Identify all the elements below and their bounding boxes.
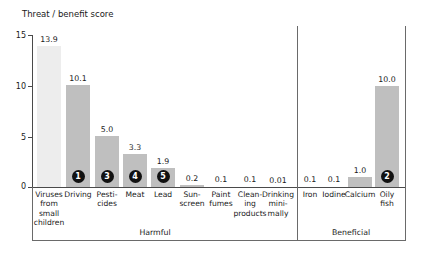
group-label-beneficial: Beneficial: [306, 228, 396, 237]
rank-badge-5: 5: [157, 170, 170, 183]
bar-value-label-1: 13.9: [29, 35, 69, 44]
x-axis-baseline: [32, 187, 405, 188]
bar-12: [348, 177, 372, 187]
category-label-13: Oilyfish: [363, 190, 411, 209]
bar-value-label-13: 10.0: [367, 75, 407, 84]
bar-value-label-2: 10.1: [58, 74, 98, 83]
y-tick-label-10: 10: [6, 82, 26, 91]
plot-area: 15 10 5 0 13.9Virusesfromsmallchildren10…: [0, 0, 431, 259]
bar-6: [180, 185, 204, 187]
y-axis-line: [32, 35, 33, 187]
y-tick-label-5: 5: [6, 133, 26, 142]
bar-value-label-3: 5.0: [87, 125, 127, 134]
rank-badge-2: 2: [381, 170, 394, 183]
bar-value-label-4: 3.3: [115, 143, 155, 152]
rank-badge-4: 4: [129, 170, 142, 183]
y-tick-5: [28, 137, 32, 138]
y-tick-10: [28, 86, 32, 87]
bar-1: [37, 46, 61, 187]
rank-badge-1: 1: [72, 170, 85, 183]
bottom-border-line: [32, 240, 406, 241]
chart-root: Threat / benefit score 15 10 5 0 13.9Vir…: [0, 0, 431, 259]
bar-value-label-12: 1.0: [340, 166, 380, 175]
rank-badge-3: 3: [101, 170, 114, 183]
bar-value-label-5: 1.9: [143, 157, 183, 166]
group-label-harmful: Harmful: [110, 228, 200, 237]
y-tick-label-15: 15: [6, 31, 26, 40]
y-tick-label-0: 0: [6, 182, 26, 191]
